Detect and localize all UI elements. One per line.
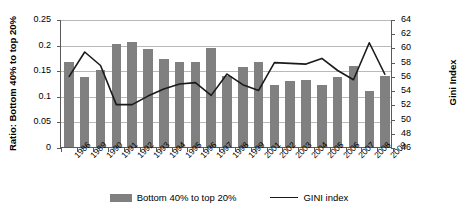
- y-tick-label-left: 0.15: [0, 65, 51, 75]
- x-tick-label: 2009: [388, 153, 395, 160]
- legend-item-line: GINI index: [270, 192, 348, 203]
- x-tick-label: 2008: [372, 153, 379, 160]
- y-tick-label-right: 64: [401, 14, 431, 24]
- x-tick-label: 1999: [246, 153, 253, 160]
- legend-label-line: GINI index: [303, 192, 348, 203]
- line-series: [61, 20, 393, 148]
- y-tick-label-left: 0.1: [0, 91, 51, 101]
- x-tick-label: 1986: [72, 153, 79, 160]
- x-tick-label: 1991: [119, 153, 126, 160]
- y-tick-label-left: 0.05: [0, 116, 51, 126]
- x-tick-label: 1997: [214, 153, 221, 160]
- y-tick-label-left: 0.25: [0, 14, 51, 24]
- x-tick-label: 2001: [262, 153, 269, 160]
- y-tick-label-right: 56: [401, 71, 431, 81]
- plot-area: 00.050.10.150.20.25 46485052545658606264: [60, 20, 392, 148]
- y-tick-label-left: 0.2: [0, 40, 51, 50]
- x-tick-label: 2003: [293, 153, 300, 160]
- y-axis-right-title: Gini Index: [447, 23, 458, 143]
- x-tick-label: 1998: [230, 153, 237, 160]
- y-tick-label-left: 0: [0, 142, 51, 152]
- x-tick-label: 2005: [325, 153, 332, 160]
- x-tick-label: 1996: [198, 153, 205, 160]
- x-tick-label: 1995: [183, 153, 190, 160]
- bar-swatch-icon: [110, 194, 132, 202]
- y-axis-left-title: Ratio: Bottom 40% to top 20%: [7, 14, 18, 154]
- x-tick-label: 1992: [135, 153, 142, 160]
- legend-label-bar: Bottom 40% to top 20%: [137, 192, 237, 203]
- x-tick-label: 1989: [88, 153, 95, 160]
- y-tick-label-right: 58: [401, 57, 431, 67]
- gini-line: [69, 43, 385, 105]
- legend-item-bar: Bottom 40% to top 20%: [110, 192, 237, 203]
- x-tick-label: 2004: [309, 153, 316, 160]
- x-tick-label: 2002: [277, 153, 284, 160]
- y-tick-label-right: 54: [401, 85, 431, 95]
- y-tick-label-right: 48: [401, 128, 431, 138]
- x-tick-label: 2006: [341, 153, 348, 160]
- y-tick-label-right: 60: [401, 42, 431, 52]
- y-tick-label-right: 62: [401, 28, 431, 38]
- y-tick-label-right: 50: [401, 114, 431, 124]
- line-swatch-icon: [270, 197, 298, 198]
- chart-legend: Bottom 40% to top 20% GINI index: [0, 192, 458, 203]
- x-tick-label: 1990: [104, 153, 111, 160]
- chart-container: Ratio: Bottom 40% to top 20% Gini Index …: [0, 0, 458, 217]
- x-tick-label: 2007: [356, 153, 363, 160]
- x-tick-label: 1994: [167, 153, 174, 160]
- x-tick-mark: [61, 148, 62, 152]
- x-tick-label: 1993: [151, 153, 158, 160]
- y-tick-label-right: 52: [401, 99, 431, 109]
